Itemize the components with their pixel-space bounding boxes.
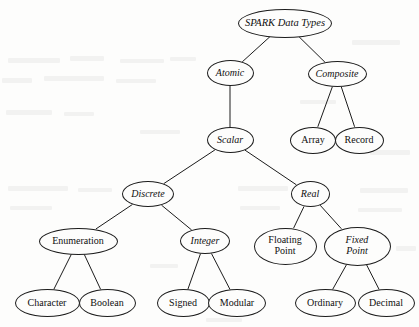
node-fixed_point: Fixed Point <box>324 227 391 266</box>
node-array: Array <box>290 127 336 154</box>
edge-scalar-to-real <box>245 150 296 185</box>
edge-discrete-to-integer <box>161 205 191 230</box>
edge-scalar-to-discrete <box>164 150 215 184</box>
node-boolean: Boolean <box>79 289 136 317</box>
edge-discrete-to-enumeration <box>96 204 133 229</box>
edge-enumeration-to-boolean <box>84 254 100 289</box>
node-decimal: Decimal <box>358 289 415 317</box>
node-scalar: Scalar <box>207 127 254 153</box>
node-record: Record <box>335 127 384 154</box>
edge-composite-to-array <box>318 87 333 127</box>
node-signed: Signed <box>157 289 210 317</box>
edge-real-to-floating_point <box>294 206 304 228</box>
edge-spark_data_types-to-atomic <box>242 37 270 62</box>
edge-fixed_point-to-decimal <box>367 265 380 290</box>
edge-fixed_point-to-ordinary <box>333 265 347 290</box>
edge-layer <box>0 0 419 327</box>
edge-enumeration-to-character <box>54 254 72 289</box>
node-enumeration: Enumeration <box>39 228 118 255</box>
node-floating_point: Floating Point <box>254 228 317 265</box>
node-real: Real <box>291 181 330 207</box>
node-composite: Composite <box>308 61 367 87</box>
edge-integer-to-modular <box>211 254 230 290</box>
node-ordinary: Ordinary <box>295 289 356 317</box>
node-discrete: Discrete <box>122 181 174 207</box>
node-atomic: Atomic <box>207 60 254 86</box>
node-modular: Modular <box>208 289 266 317</box>
edge-integer-to-signed <box>188 254 201 289</box>
edge-spark_data_types-to-composite <box>299 37 325 62</box>
edge-real-to-fixed_point <box>320 205 341 229</box>
node-spark_data_types: SPARK Data Types <box>238 9 332 38</box>
edge-composite-to-record <box>341 87 354 127</box>
diagram-canvas: SPARK Data TypesAtomicCompositeScalarArr… <box>0 0 419 327</box>
node-integer: Integer <box>180 228 230 254</box>
node-character: Character <box>15 289 80 317</box>
